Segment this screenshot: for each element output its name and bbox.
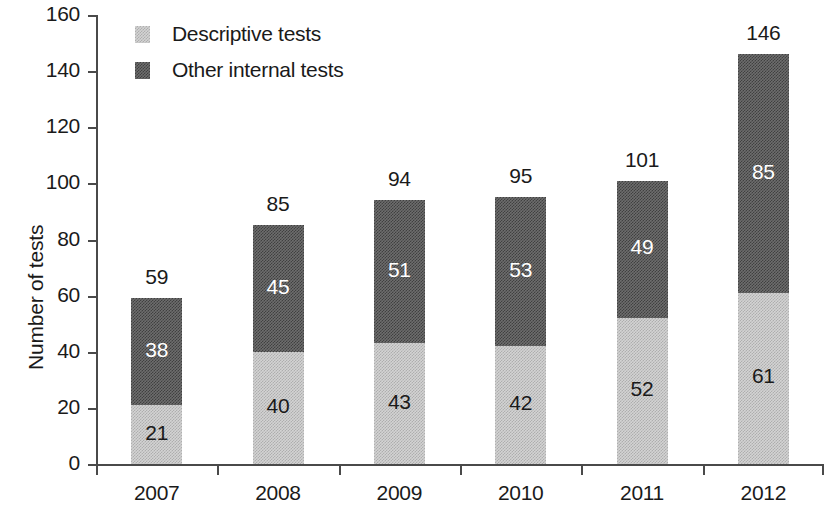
- bar-value-label-descriptive: 42: [461, 391, 581, 415]
- y-axis-tick: [88, 240, 96, 242]
- bar-value-label-descriptive: 61: [703, 364, 823, 388]
- x-axis-tick-label: 2010: [461, 481, 581, 505]
- bar-value-label-other-internal: 51: [339, 258, 459, 282]
- x-axis-tick: [822, 466, 824, 475]
- y-axis-tick-label: 140: [2, 58, 80, 82]
- y-axis-tick: [88, 352, 96, 354]
- y-axis-tick: [88, 183, 96, 185]
- x-axis-tick-label: 2008: [218, 481, 338, 505]
- bar-value-label-descriptive: 40: [218, 394, 338, 418]
- y-axis-tick: [88, 71, 96, 73]
- bar-total-label: 59: [97, 265, 217, 289]
- bar-value-label-descriptive: 52: [582, 377, 702, 401]
- x-axis-tick: [96, 466, 98, 475]
- y-axis-tick-label: 0: [2, 451, 80, 475]
- x-axis-tick: [581, 466, 583, 475]
- bar-total-label: 95: [461, 164, 581, 188]
- y-axis-tick: [88, 296, 96, 298]
- bar-value-label-other-internal: 45: [218, 275, 338, 299]
- x-axis-tick-label: 2009: [339, 481, 459, 505]
- x-axis-tick: [703, 466, 705, 475]
- x-axis-tick: [217, 466, 219, 475]
- x-axis-tick: [460, 466, 462, 475]
- legend-item[interactable]: Descriptive tests: [135, 22, 321, 46]
- bar-total-label: 101: [582, 148, 702, 172]
- bar-value-label-other-internal: 53: [461, 258, 581, 282]
- y-axis-tick-label: 60: [2, 283, 80, 307]
- y-axis-tick-label: 80: [2, 227, 80, 251]
- legend-item[interactable]: Other internal tests: [135, 58, 343, 82]
- bar-value-label-descriptive: 43: [339, 390, 459, 414]
- legend-swatch-other-internal-icon: [135, 62, 150, 79]
- bar-value-label-descriptive: 21: [97, 421, 217, 445]
- legend-label: Other internal tests: [172, 58, 343, 82]
- bar-value-label-other-internal: 85: [703, 160, 823, 184]
- y-axis-tick-label: 100: [2, 170, 80, 194]
- y-axis-tick: [88, 127, 96, 129]
- y-axis-tick-label: 20: [2, 395, 80, 419]
- y-axis-line: [96, 15, 98, 466]
- y-axis-tick-label: 160: [2, 2, 80, 26]
- legend-label: Descriptive tests: [172, 22, 321, 46]
- x-axis-tick-label: 2007: [97, 481, 217, 505]
- y-axis-tick-label: 40: [2, 339, 80, 363]
- x-axis-tick-label: 2011: [582, 481, 702, 505]
- legend-swatch-descriptive-icon: [135, 26, 150, 43]
- y-axis-tick: [88, 464, 96, 466]
- bar-total-label: 85: [218, 192, 338, 216]
- y-axis-tick: [88, 15, 96, 17]
- x-axis-tick: [339, 466, 341, 475]
- y-axis-tick-label: 120: [2, 114, 80, 138]
- bar-value-label-other-internal: 38: [97, 338, 217, 362]
- bar-value-label-other-internal: 49: [582, 235, 702, 259]
- bar-total-label: 94: [339, 167, 459, 191]
- x-axis-tick-label: 2012: [703, 481, 823, 505]
- y-axis-tick: [88, 408, 96, 410]
- bar-total-label: 146: [703, 21, 823, 45]
- stacked-bar-chart: Number of tests 020406080100120140160 20…: [0, 0, 828, 514]
